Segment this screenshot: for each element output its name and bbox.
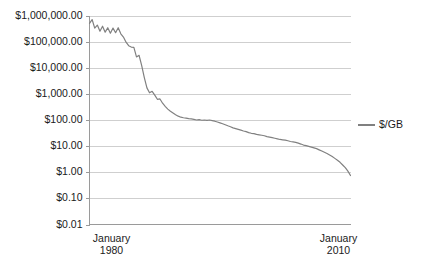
y-axis-tick-label: $100,000.00 <box>24 35 83 47</box>
y-axis-tick-label: $10.00 <box>50 139 82 151</box>
legend-label-usd-per-gb: $/GB <box>379 118 403 130</box>
x-axis-tick-labels: January1980January2010 <box>93 232 358 256</box>
y-axis-tick-label: $10,000.00 <box>30 61 83 73</box>
gridlines <box>90 17 351 225</box>
y-axis-tick-label: $1,000,000.00 <box>15 9 82 21</box>
line-chart: $1,000,000.00$100,000.00$10,000.00$1,000… <box>0 0 423 278</box>
y-axis-tick-label: $0.10 <box>56 191 82 203</box>
y-axis-tick-label: $0.01 <box>56 218 82 230</box>
x-axis-tick-label: January2010 <box>320 232 358 256</box>
y-axis-tick-label: $1,000.00 <box>36 87 83 99</box>
y-axis-tick-label: $1.00 <box>56 165 82 177</box>
chart-legend: $/GB <box>358 118 403 130</box>
y-axis-tick-labels: $1,000,000.00$100,000.00$10,000.00$1,000… <box>15 9 82 230</box>
x-axis-tick-label: January1980 <box>93 232 131 256</box>
y-axis-tick-label: $100.00 <box>45 113 83 125</box>
axis-tickmarks <box>86 17 90 226</box>
chart-container: $1,000,000.00$100,000.00$10,000.00$1,000… <box>0 0 423 278</box>
